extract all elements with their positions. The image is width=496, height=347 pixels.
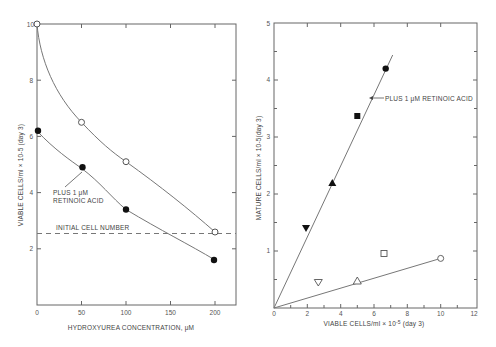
open-circle-marker bbox=[123, 159, 129, 165]
y-tick-label: 4 bbox=[266, 76, 270, 83]
x-tick-label: 100 bbox=[121, 309, 132, 316]
y-tick-label: 8 bbox=[29, 77, 33, 84]
y-tick-label: 4 bbox=[29, 189, 33, 196]
x-tick-label: 4 bbox=[339, 310, 343, 317]
y-tick-label: 5 bbox=[266, 20, 270, 27]
x-tick-label: 200 bbox=[210, 309, 221, 316]
x-tick-label: 6 bbox=[372, 310, 376, 317]
left-y-axis-label: VIABLE CELLS/ml × 10-5 (day 3) bbox=[17, 124, 25, 226]
x-tick-label: 0 bbox=[272, 310, 276, 317]
y-tick-label: 10 bbox=[27, 21, 35, 28]
filled-circle-marker bbox=[211, 257, 217, 263]
open-circle-marker bbox=[438, 255, 444, 261]
filled-triangle-down-marker bbox=[302, 225, 310, 232]
right-y-ticks bbox=[274, 52, 477, 280]
x-tick-label: 2 bbox=[305, 310, 309, 317]
filled-circle-marker bbox=[79, 164, 85, 170]
x-tick-label: 0 bbox=[35, 309, 39, 316]
retinoic-acid-leader-line bbox=[65, 172, 82, 187]
retinoic-acid-annotation: PLUS 1 μM RETINOIC ACID bbox=[369, 95, 473, 103]
x-tick-label: 8 bbox=[405, 310, 409, 317]
arrowhead-icon bbox=[369, 96, 373, 100]
right-x-tick-labels: 0 2 4 6 8 10 12 bbox=[272, 310, 478, 317]
y-tick-label: 1 bbox=[266, 247, 270, 254]
right-y-tick-labels: 1 2 3 4 5 bbox=[266, 20, 270, 255]
right-x-axis-label: VIABLE CELLS/ml × 10-5 (day 3) bbox=[324, 319, 425, 329]
left-x-tick-labels: 0 50 100 150 200 bbox=[35, 309, 221, 316]
filled-circle-marker bbox=[35, 128, 41, 134]
initial-cell-number-label: INITIAL CELL NUMBER bbox=[56, 224, 129, 231]
left-chart: 0 50 100 150 200 2 4 6 8 10 HYDROXYUREA … bbox=[17, 21, 236, 333]
retinoic-acid-label-line2: RETINOIC ACID bbox=[53, 197, 104, 204]
filled-circle-marker bbox=[383, 65, 389, 71]
open-triangle-down-marker bbox=[314, 280, 322, 287]
right-y-axis-label: MATURE CELLS/ml × 10-5(day 3) bbox=[255, 116, 263, 220]
right-x-ticks bbox=[291, 23, 458, 308]
open-circle-marker bbox=[34, 21, 40, 27]
x-label-tail: (day 3) bbox=[401, 320, 425, 328]
x-tick-label: 10 bbox=[437, 310, 445, 317]
x-tick-label: 12 bbox=[470, 310, 478, 317]
right-chart: 0 2 4 6 8 10 12 bbox=[255, 20, 478, 329]
control-markers bbox=[314, 251, 443, 287]
filled-triangle-up-marker bbox=[328, 179, 336, 186]
retinoic-acid-label: PLUS 1 μM RETINOIC ACID bbox=[385, 95, 473, 103]
y-tick-label: 3 bbox=[266, 133, 270, 140]
x-tick-label: 150 bbox=[165, 309, 176, 316]
left-plot-frame bbox=[37, 24, 236, 305]
x-label-main: VIABLE CELLS/ml × 10 bbox=[324, 320, 397, 327]
filled-square-marker bbox=[354, 113, 360, 119]
filled-circle-marker bbox=[123, 206, 129, 212]
right-plot-frame bbox=[274, 23, 477, 308]
y-tick-label: 2 bbox=[266, 190, 270, 197]
y-tick-label: 6 bbox=[29, 133, 33, 140]
y-tick-label: 2 bbox=[29, 245, 33, 252]
open-circle-marker bbox=[79, 119, 85, 125]
open-square-marker bbox=[381, 251, 387, 257]
left-x-ticks bbox=[82, 24, 216, 305]
open-triangle-up-marker bbox=[353, 277, 361, 284]
open-circle-marker bbox=[212, 229, 218, 235]
left-y-tick-labels: 2 4 6 8 10 bbox=[27, 21, 35, 253]
x-tick-label: 50 bbox=[78, 309, 86, 316]
left-x-axis-label: HYDROXYUREA CONCENTRATION, μM bbox=[68, 324, 194, 332]
retinoic-acid-label-line1: PLUS 1 μM bbox=[53, 189, 88, 197]
